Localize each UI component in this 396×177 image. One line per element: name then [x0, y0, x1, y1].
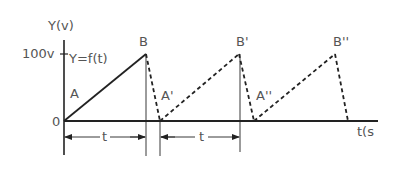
point-label-b1: B': [236, 34, 249, 49]
drop-b2: [335, 54, 348, 121]
point-label-a1: A': [161, 88, 173, 103]
point-label-b: B: [139, 34, 148, 49]
drop-b-a1: [146, 54, 160, 121]
x-axis-label: t(s: [357, 124, 374, 139]
y-axis-label: Y(v): [47, 18, 74, 33]
drop-b1-a2: [239, 54, 254, 121]
function-label: Y=f(t): [68, 51, 108, 66]
point-label-a2: A'': [256, 88, 272, 103]
sawtooth-diagram: Y(v) 100v Y=f(t) 0 A B A' B' A'' B'' t(s…: [0, 0, 396, 177]
dimension-label-1: t: [102, 129, 107, 144]
point-label-a: A: [70, 86, 79, 101]
dimension-label-2: t: [199, 129, 204, 144]
origin-label: 0: [52, 114, 60, 129]
point-label-b2: B'': [333, 34, 349, 49]
y-tick-label: 100v: [22, 46, 55, 61]
